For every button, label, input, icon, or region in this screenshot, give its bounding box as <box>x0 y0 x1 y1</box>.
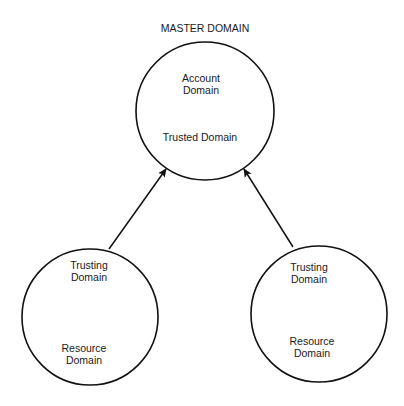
domain-trust-diagram: MASTER DOMAIN Account Domain Trusted Dom… <box>0 0 404 406</box>
right-trusting-label-line1: Trusting <box>290 261 328 273</box>
left-trusting-label-line1: Trusting <box>70 259 108 271</box>
master-domain-title: MASTER DOMAIN <box>161 22 250 34</box>
account-domain-label-line1: Account <box>182 72 220 84</box>
trusted-domain-label: Trusted Domain <box>163 131 237 143</box>
left-trust-arrow <box>109 169 166 249</box>
left-resource-label-line1: Resource <box>62 342 107 354</box>
right-resource-label-line2: Domain <box>294 347 330 359</box>
right-trust-arrow <box>244 169 293 247</box>
master-domain-node: Account Domain Trusted Domain <box>136 42 274 180</box>
master-domain-circle <box>136 42 274 180</box>
left-trusting-label-line2: Domain <box>71 271 107 283</box>
right-trusting-domain-node: Trusting Domain Resource Domain <box>251 246 387 382</box>
left-resource-label-line2: Domain <box>66 354 102 366</box>
right-trusting-label-line2: Domain <box>291 273 327 285</box>
right-resource-label-line1: Resource <box>290 335 335 347</box>
account-domain-label-line2: Domain <box>183 84 219 96</box>
left-trusting-domain-node: Trusting Domain Resource Domain <box>22 249 158 385</box>
